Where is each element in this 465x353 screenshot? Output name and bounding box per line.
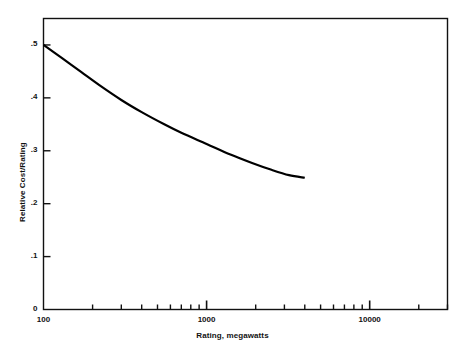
y-axis-tick-label: .1	[14, 251, 38, 260]
y-axis-tick-label: .2	[14, 198, 38, 207]
x-axis-tick-label: 1000	[177, 315, 237, 324]
x-axis-tick-label: 10000	[340, 315, 400, 324]
data-series-line	[44, 45, 305, 178]
y-axis-tick-label: .5	[14, 39, 38, 48]
y-axis-tick-label: .3	[14, 145, 38, 154]
chart-plot-area	[0, 0, 465, 353]
chart-figure: Rating, megawatts Relative Cost/Rating 0…	[0, 0, 465, 353]
y-axis-tick-label: .4	[14, 92, 38, 101]
x-axis-title: Rating, megawatts	[0, 331, 465, 340]
plot-frame	[44, 19, 448, 310]
x-axis-tick-label: 100	[14, 315, 74, 324]
y-axis-tick-label: 0	[14, 304, 38, 313]
